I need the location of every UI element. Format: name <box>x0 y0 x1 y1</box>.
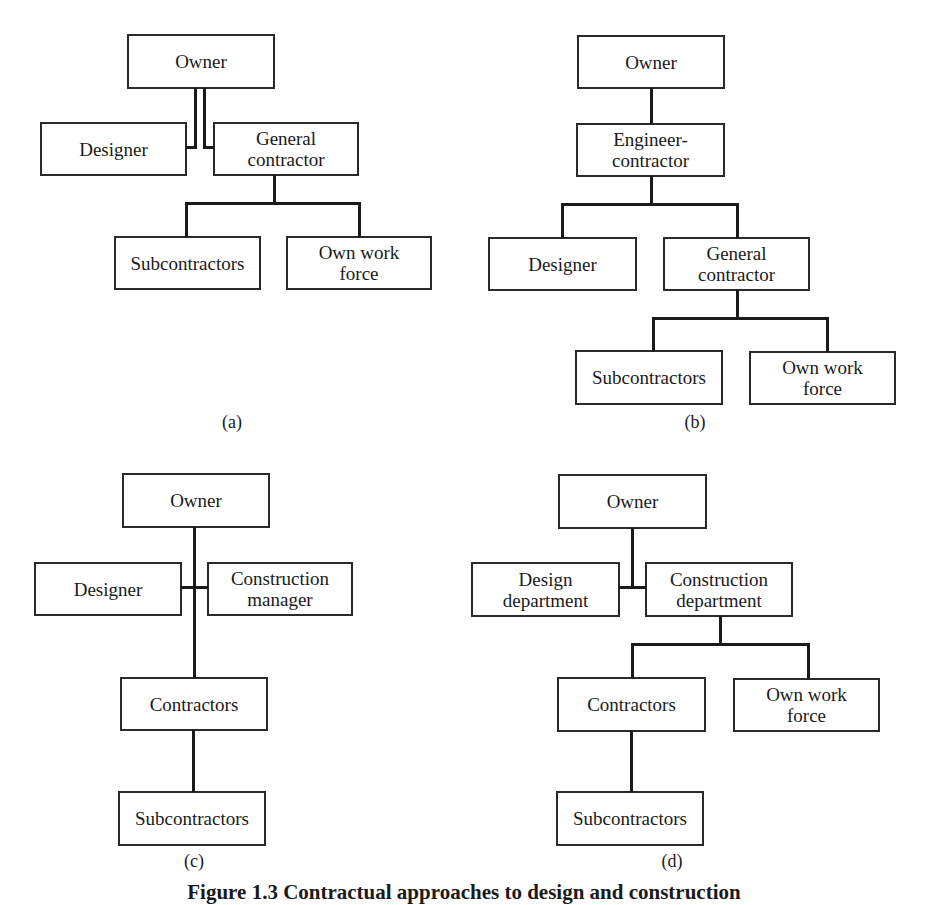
node-subcontractors: Subcontractors <box>114 236 261 290</box>
connector-ec-designer <box>561 203 564 238</box>
node-label: Subcontractors <box>573 808 687 829</box>
node-label: Subcontractors <box>131 253 245 274</box>
connector-cd-bar <box>631 643 810 646</box>
connector-designer-cm <box>181 586 208 589</box>
node-designer: Designer <box>34 562 182 616</box>
connector-ec-bar <box>561 203 739 206</box>
node-label: Designer <box>528 254 597 275</box>
node-own-work-force: Own work force <box>286 236 432 290</box>
node-label: Subcontractors <box>135 808 249 829</box>
connector-cd-own-work-force <box>807 643 810 679</box>
node-construction-department: Construction department <box>645 562 793 617</box>
node-label: Designer <box>74 579 143 600</box>
connector-gc-stem <box>736 290 739 320</box>
node-label: Owner <box>170 490 222 511</box>
node-label: Engineer- contractor <box>612 129 689 171</box>
node-owner: Owner <box>577 35 725 89</box>
node-designer: Designer <box>40 122 187 176</box>
connector-contractors-subcontractors <box>630 731 633 792</box>
connector-owner-designer <box>194 88 197 149</box>
node-own-work-force: Own work force <box>733 678 880 732</box>
node-subcontractors: Subcontractors <box>556 791 704 846</box>
panel-label: (a) <box>222 412 242 433</box>
node-label: Design department <box>503 569 588 611</box>
connector-gc-stem <box>273 175 276 205</box>
node-subcontractors: Subcontractors <box>118 791 266 846</box>
node-owner: Owner <box>122 473 270 528</box>
node-own-work-force: Own work force <box>749 351 896 405</box>
connector-owner-gc <box>203 88 206 149</box>
panel-label: (c) <box>184 851 204 872</box>
node-label: Construction manager <box>231 568 329 610</box>
connector-owner-ec <box>650 88 653 124</box>
connector-cd-contractors <box>631 643 634 678</box>
node-label: Contractors <box>587 694 676 715</box>
node-label: Owner <box>607 491 659 512</box>
connector-cd-stem <box>719 616 722 646</box>
node-label: Owner <box>175 51 227 72</box>
connector-design-construction <box>619 586 646 589</box>
node-contractors: Contractors <box>557 677 706 732</box>
node-label: Construction department <box>670 569 768 611</box>
connector-gc-own-work-force <box>826 317 829 352</box>
connector-gc-subcontractors <box>185 202 188 237</box>
node-designer: Designer <box>488 237 637 291</box>
connector-gc-bar <box>652 317 829 320</box>
connector-gc-bar <box>185 202 361 205</box>
node-owner: Owner <box>127 34 275 89</box>
connector-gc-own-work-force <box>358 202 361 237</box>
node-subcontractors: Subcontractors <box>575 350 723 405</box>
connector-gc-subcontractors <box>652 317 655 351</box>
node-general-contractor: General contractor <box>663 237 810 291</box>
node-design-department: Design department <box>471 562 620 617</box>
connector-owner-departments <box>631 528 634 589</box>
node-label: Owner <box>625 52 677 73</box>
node-engineer-contractor: Engineer- contractor <box>576 123 725 177</box>
figure-caption: Figure 1.3 Contractual approaches to des… <box>0 880 928 905</box>
connector-owner-designer <box>186 146 197 149</box>
connector-ec-stem <box>650 176 653 206</box>
node-label: Own work force <box>766 684 847 726</box>
node-label: General contractor <box>698 243 775 285</box>
connector-contractors-subcontractors <box>192 730 195 792</box>
connector-owner-gc <box>203 146 214 149</box>
node-general-contractor: General contractor <box>213 122 359 176</box>
panel-label: (d) <box>662 851 683 872</box>
node-owner: Owner <box>558 474 707 529</box>
node-label: Subcontractors <box>592 367 706 388</box>
node-construction-manager: Construction manager <box>207 562 353 616</box>
node-label: Contractors <box>150 694 239 715</box>
node-contractors: Contractors <box>120 677 268 731</box>
node-label: General contractor <box>247 128 324 170</box>
node-label: Own work force <box>782 357 863 399</box>
node-label: Designer <box>79 139 148 160</box>
node-label: Own work force <box>319 242 400 284</box>
connector-owner-contractors <box>193 527 196 678</box>
connector-ec-gc <box>736 203 739 238</box>
panel-label: (b) <box>685 412 706 433</box>
